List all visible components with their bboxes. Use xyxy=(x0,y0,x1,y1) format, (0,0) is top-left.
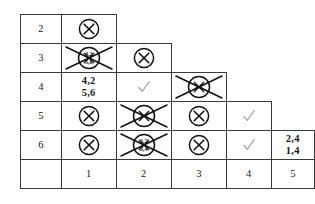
column-header-1: 1 xyxy=(61,160,116,189)
check-icon xyxy=(117,73,171,101)
circled-x-icon xyxy=(172,131,226,159)
column-header-5: 5 xyxy=(271,160,314,189)
circled-x-icon xyxy=(62,131,116,159)
check-icon xyxy=(227,102,271,130)
cell-circled-x xyxy=(171,102,226,131)
cell-value: 2,4 1,4 xyxy=(286,133,300,156)
circled-x-icon xyxy=(62,102,116,130)
empty-area xyxy=(271,73,314,102)
cell-circled-x xyxy=(171,131,226,160)
check-icon xyxy=(227,131,271,159)
cell-circled-x xyxy=(61,15,116,44)
table-row: 51,3 xyxy=(21,102,315,131)
row-label xyxy=(21,160,62,189)
cell-circled-x xyxy=(116,44,171,73)
column-header-4: 4 xyxy=(226,160,271,189)
crossed-circled-x-icon: 1,2 xyxy=(172,73,226,101)
circled-x-icon xyxy=(172,102,226,130)
empty-area xyxy=(271,102,314,131)
empty-area xyxy=(271,44,314,73)
cell-circled-x xyxy=(61,131,116,160)
empty-area xyxy=(271,15,314,44)
cell-crossed-circled-x: 4,2 5,6 xyxy=(61,44,116,73)
cell-check xyxy=(226,102,271,131)
crossed-circled-x-icon: 1,3 xyxy=(117,102,171,130)
empty-area xyxy=(171,15,226,44)
circled-x-icon xyxy=(62,15,116,43)
table-row: 34,2 5,6 xyxy=(21,44,315,73)
cell-check xyxy=(116,73,171,102)
cell-crossed-circled-x: 3,2 3,4 xyxy=(116,131,171,160)
cell-check xyxy=(226,131,271,160)
row-label: 2 xyxy=(21,15,62,44)
staircase-diagram: 234,2 5,644,2 5,61,251,363,2 3,42,4 1,41… xyxy=(20,14,315,189)
table-body: 234,2 5,644,2 5,61,251,363,2 3,42,4 1,41… xyxy=(21,15,315,189)
row-label: 3 xyxy=(21,44,62,73)
cell-numbers: 2,4 1,4 xyxy=(271,131,314,160)
cell-crossed-circled-x: 1,2 xyxy=(171,73,226,102)
table-row: 12345 xyxy=(21,160,315,189)
cell-crossed-circled-x: 1,3 xyxy=(116,102,171,131)
crossed-circled-x-icon: 4,2 5,6 xyxy=(62,44,116,72)
column-header-3: 3 xyxy=(171,160,226,189)
empty-area xyxy=(226,15,271,44)
row-label: 5 xyxy=(21,102,62,131)
empty-area xyxy=(171,44,226,73)
empty-area xyxy=(116,15,171,44)
column-header-2: 2 xyxy=(116,160,171,189)
circled-x-icon xyxy=(117,44,171,72)
table-row: 44,2 5,61,2 xyxy=(21,73,315,102)
empty-area xyxy=(226,73,271,102)
staircase-table: 234,2 5,644,2 5,61,251,363,2 3,42,4 1,41… xyxy=(20,14,315,189)
cell-value: 4,2 5,6 xyxy=(82,75,96,98)
table-row: 2 xyxy=(21,15,315,44)
row-label: 6 xyxy=(21,131,62,160)
empty-area xyxy=(226,44,271,73)
cell-circled-x xyxy=(61,102,116,131)
crossed-circled-x-icon: 3,2 3,4 xyxy=(117,131,171,159)
cell-numbers: 4,2 5,6 xyxy=(61,73,116,102)
row-label: 4 xyxy=(21,73,62,102)
table-row: 63,2 3,42,4 1,4 xyxy=(21,131,315,160)
